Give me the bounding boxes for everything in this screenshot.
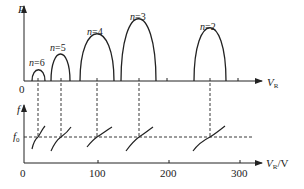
- top-x-axis-label: VR: [267, 77, 278, 90]
- bottom-x-axis-label: VR/V: [266, 158, 288, 171]
- mode-n2-label: n=2: [200, 22, 216, 32]
- mode-n3-label: n=3: [130, 12, 146, 22]
- mode-n5-curve: [51, 54, 70, 81]
- power-axis-label: P: [18, 4, 25, 15]
- tick-label-200: 200: [160, 168, 177, 179]
- tick-label-100: 100: [89, 168, 106, 179]
- mode-n6-label: n=6: [29, 58, 45, 68]
- mode-n3-curve: [121, 19, 156, 81]
- mode-n2-curve: [194, 28, 226, 81]
- frequency-axis-label: f: [17, 104, 20, 115]
- tick-label-0: 0: [20, 168, 26, 179]
- mode-n5-label: n=5: [50, 43, 66, 53]
- mode-n4-label: n=4: [87, 27, 103, 37]
- mode-n4-curve: [80, 34, 114, 81]
- mode-n6-curve: [32, 70, 45, 81]
- top-origin-label: 0: [19, 84, 25, 95]
- diagram-canvas: [0, 0, 304, 189]
- f0-label: f0: [13, 131, 20, 144]
- tick-label-300: 300: [231, 168, 248, 179]
- mode-center-dashes: [38, 78, 210, 137]
